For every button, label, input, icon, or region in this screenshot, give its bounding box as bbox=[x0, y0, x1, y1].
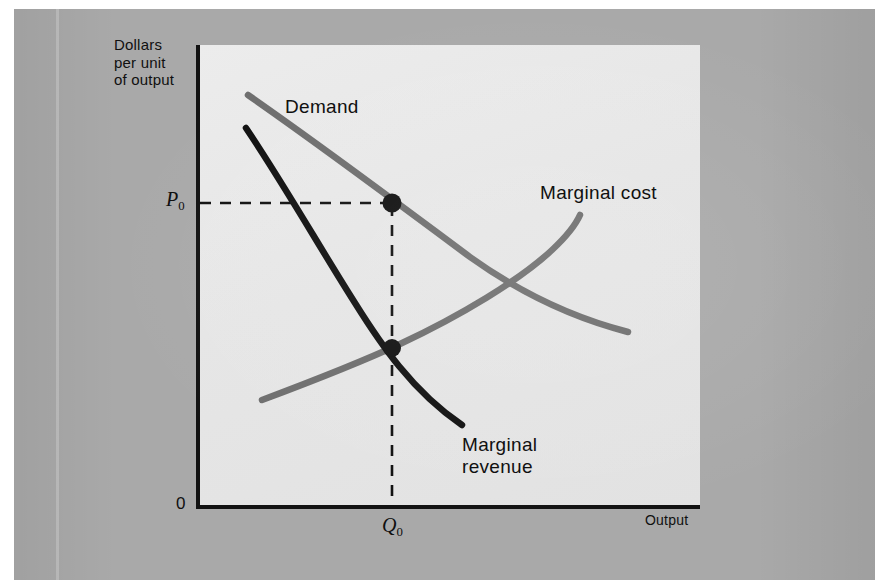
price-tick-subscript: 0 bbox=[178, 199, 184, 213]
marginal-cost-curve bbox=[262, 215, 580, 400]
price-tick-letter: P bbox=[166, 188, 178, 210]
demand-curve-label: Demand bbox=[285, 96, 359, 118]
mr-equals-mc-point-dot bbox=[383, 339, 401, 357]
quantity-tick-subscript: 0 bbox=[396, 525, 402, 539]
y-axis-label: Dollars per unit of output bbox=[114, 36, 174, 89]
demand-curve bbox=[248, 95, 628, 332]
marginal-revenue-label-line2: revenue bbox=[462, 456, 533, 477]
price-point-dot bbox=[383, 194, 402, 213]
figure-container: Dollars per unit of output Output 0 P0 Q… bbox=[0, 0, 887, 587]
x-axis-label: Output bbox=[645, 512, 688, 529]
marginal-cost-curve-label: Marginal cost bbox=[540, 182, 657, 204]
marginal-revenue-curve-label: Marginalrevenue bbox=[462, 434, 537, 479]
origin-label: 0 bbox=[176, 494, 185, 514]
quantity-tick-label: Q0 bbox=[382, 514, 403, 540]
marginal-revenue-label-line1: Marginal bbox=[462, 434, 537, 455]
quantity-tick-letter: Q bbox=[382, 514, 396, 536]
price-tick-label: P0 bbox=[166, 188, 185, 214]
